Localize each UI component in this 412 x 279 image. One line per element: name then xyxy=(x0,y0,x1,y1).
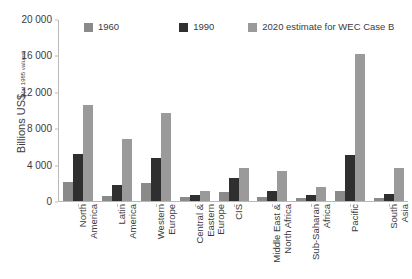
bar xyxy=(112,185,122,201)
bar xyxy=(384,194,394,201)
x-axis-labels: NorthAmericaLatinAmericaWesternEuropeCen… xyxy=(59,204,408,276)
y-axis-tick-mark xyxy=(55,20,58,21)
y-axis-tick-mark xyxy=(55,92,58,93)
footer-cropped-text xyxy=(0,272,412,279)
bar xyxy=(296,198,306,201)
x-axis-label-line: Central & xyxy=(195,204,206,244)
bar xyxy=(141,183,151,201)
x-axis-label-cell: Middle East &North Africa xyxy=(253,204,292,276)
bar xyxy=(219,192,229,201)
x-axis-label-line: Pacific xyxy=(350,204,361,232)
x-axis-label: Sub-SaharanAfrica xyxy=(311,204,332,260)
x-axis-label: SouthAsia xyxy=(389,204,410,229)
x-axis-label-cell: LatinAmerica xyxy=(98,204,137,276)
bar-group xyxy=(330,20,369,201)
x-axis-label-cell: Central &EasternEurope xyxy=(175,204,214,276)
y-axis-title-main: Billions US$ xyxy=(15,94,27,153)
bar xyxy=(267,191,277,201)
bar-group xyxy=(137,20,176,201)
bar xyxy=(73,154,83,201)
bar xyxy=(180,197,190,201)
bar xyxy=(374,198,384,201)
bar xyxy=(122,139,132,201)
y-axis-tick-label: 16 000 xyxy=(21,51,58,61)
bar xyxy=(63,182,73,201)
bar-group xyxy=(253,20,292,201)
x-axis-label: CIS xyxy=(234,204,245,220)
y-axis-tick-label: 12 000 xyxy=(21,88,58,98)
x-axis-label-line: South xyxy=(389,204,400,229)
x-axis-label: Middle East &North Africa xyxy=(272,204,293,263)
bar xyxy=(102,196,112,201)
x-axis-label-cell: Sub-SaharanAfrica xyxy=(292,204,331,276)
x-axis-label-line: CIS xyxy=(234,204,245,220)
bar xyxy=(229,178,239,201)
y-axis-tick-label: 4 000 xyxy=(27,161,58,171)
x-axis-label: WesternEurope xyxy=(156,204,177,239)
y-axis-tick-mark xyxy=(55,165,58,166)
x-axis-label-cell: Pacific xyxy=(330,204,369,276)
x-axis-label-line: Sub-Saharan xyxy=(311,204,322,260)
x-axis-label: NorthAmerica xyxy=(78,204,99,239)
x-axis-label-line: Asia xyxy=(399,204,410,229)
bar-group xyxy=(98,20,137,201)
bar xyxy=(335,191,345,201)
x-axis-line xyxy=(58,201,408,202)
y-axis-tick-mark xyxy=(55,202,58,203)
x-axis-label-cell: CIS xyxy=(214,204,253,276)
bar xyxy=(190,195,200,201)
bar-groups xyxy=(59,20,408,201)
x-axis-label-cell: NorthAmerica xyxy=(59,204,98,276)
bar xyxy=(200,191,210,201)
bar xyxy=(394,168,404,201)
y-axis-title: Billions US$(at 1985 values) xyxy=(15,22,27,182)
y-axis-tick-mark xyxy=(55,56,58,57)
x-axis-label-cell: WesternEurope xyxy=(137,204,176,276)
bar xyxy=(306,195,316,201)
bar xyxy=(355,54,365,201)
bar xyxy=(316,187,326,201)
bar xyxy=(161,113,171,201)
bar xyxy=(257,197,267,201)
bar xyxy=(151,158,161,201)
bar-group xyxy=(59,20,98,201)
x-axis-label: LatinAmerica xyxy=(117,204,138,239)
y-axis-tick-label: 20 000 xyxy=(21,15,58,25)
bar-group xyxy=(369,20,408,201)
bar-group xyxy=(175,20,214,201)
bar xyxy=(277,171,287,201)
bar-chart-figure: 1960 1990 2020 estimate for WEC Case B B… xyxy=(0,0,412,279)
x-axis-label: Pacific xyxy=(350,204,361,232)
bar xyxy=(345,155,355,201)
bar xyxy=(239,168,249,201)
x-axis-label-cell: SouthAsia xyxy=(369,204,408,276)
bar-group xyxy=(292,20,331,201)
y-axis-tick-label: 8 000 xyxy=(27,124,58,134)
x-axis-label-line: Western xyxy=(156,204,167,239)
bar xyxy=(83,105,93,201)
y-axis-tick-mark xyxy=(55,129,58,130)
bar-group xyxy=(214,20,253,201)
plot-area: 04 0008 00012 00016 00020 000 xyxy=(58,20,408,202)
